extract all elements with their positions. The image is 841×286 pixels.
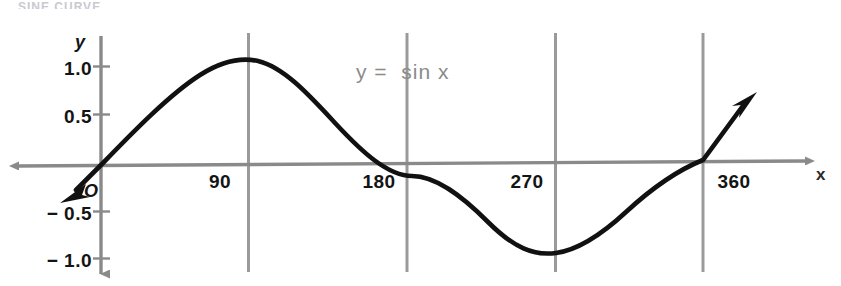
y-axis-label: y <box>75 33 85 51</box>
x-tick-label-270: 270 <box>503 172 551 191</box>
x-tick-label-360: 360 <box>710 172 758 191</box>
gridlines <box>249 33 704 272</box>
plot-canvas <box>0 0 841 286</box>
sine-curve-path <box>76 60 745 254</box>
y-axis <box>93 36 110 274</box>
x-tick-label-90: 90 <box>196 172 244 191</box>
sine-curve-figure: SINE CURVE <box>0 0 841 286</box>
y-tick-label-1.0: 1.0 <box>6 59 92 78</box>
x-axis-label: x <box>816 166 825 183</box>
y-tick-label-neg-1.0: − 1.0 <box>2 251 92 270</box>
y-tick-label-neg-0.5: − 0.5 <box>2 204 92 223</box>
x-tick-label-180: 180 <box>355 172 403 191</box>
y-tick-label-0.5: 0.5 <box>6 107 92 126</box>
equation-annotation: y = sin x <box>356 61 449 82</box>
origin-label: O <box>84 182 98 200</box>
